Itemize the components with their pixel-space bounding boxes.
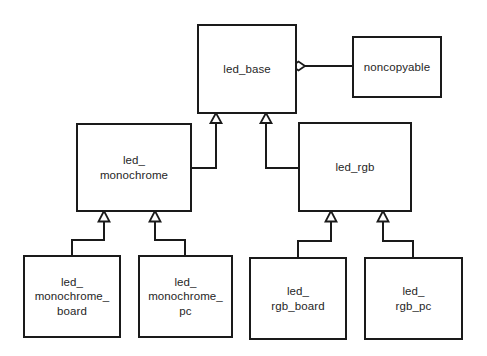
hollow-triangle-icon (378, 211, 389, 222)
class-box-led-rgb[interactable]: led_rgb (298, 122, 412, 212)
class-name-label: led_ monochrome_ board (33, 275, 112, 319)
class-box-led-rgb-board[interactable]: led_ rgb_board (249, 257, 347, 340)
hollow-triangle-icon (99, 211, 110, 222)
hollow-triangle-icon (261, 113, 272, 123)
generalization-led-monochrome-pc-led-monochrome (150, 211, 186, 255)
class-box-led-monochrome-pc[interactable]: led_ monochrome_ pc (138, 255, 233, 338)
class-name-label: led_rgb (333, 160, 376, 175)
class-name-label: led_ monochrome_ pc (146, 275, 225, 319)
generalization-led-rgb-board-led-rgb (298, 211, 337, 257)
uml-class-diagram-canvas: led_base noncopyable led_ monochrome led… (0, 0, 487, 356)
class-box-led-monochrome-board[interactable]: led_ monochrome_ board (23, 255, 121, 338)
class-box-led-base[interactable]: led_base (197, 24, 297, 114)
hollow-triangle-icon (150, 211, 161, 222)
hollow-triangle-icon (326, 211, 337, 222)
class-box-led-monochrome[interactable]: led_ monochrome (76, 123, 192, 212)
generalization-led-rgb-pc-led-rgb (378, 211, 414, 257)
class-name-label: noncopyable (362, 60, 432, 75)
class-box-noncopyable[interactable]: noncopyable (352, 36, 442, 98)
class-name-label: led_ rgb_board (269, 284, 326, 313)
class-name-label: led_base (221, 62, 272, 77)
hollow-triangle-icon (211, 113, 222, 123)
aggregation-led-base-noncopyable (292, 62, 352, 71)
class-name-label: led_ rgb_pc (394, 284, 434, 313)
generalization-led-rgb-led-base (261, 113, 299, 168)
class-box-led-rgb-pc[interactable]: led_ rgb_pc (364, 257, 463, 340)
generalization-led-monochrome-board-led-monochrome (72, 211, 110, 255)
class-name-label: led_ monochrome (98, 153, 170, 182)
generalization-led-monochrome-led-base (192, 113, 222, 168)
